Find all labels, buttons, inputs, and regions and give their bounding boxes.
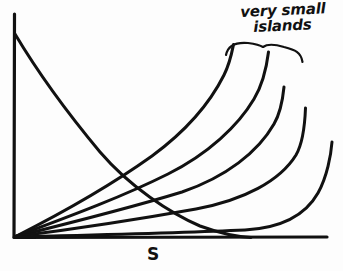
curve-rising-4 bbox=[16, 108, 306, 237]
annotation-text-line2: islands bbox=[253, 17, 312, 35]
x-axis-label: S bbox=[138, 244, 168, 264]
y-axis bbox=[14, 14, 15, 237]
annotation-brace bbox=[226, 43, 303, 62]
curve-rising-5 bbox=[16, 142, 333, 237]
chart-canvas bbox=[0, 0, 343, 271]
curve-rising-2 bbox=[16, 52, 269, 237]
chart-figure: very small islands S bbox=[0, 0, 343, 271]
